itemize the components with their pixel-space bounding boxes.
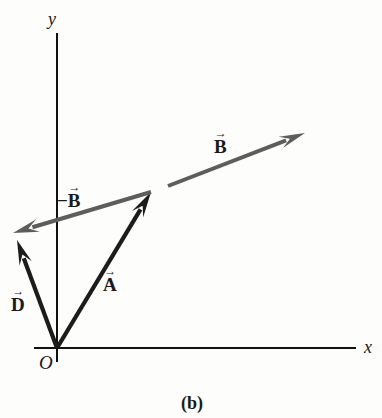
vector-label-text-D: D — [11, 294, 25, 315]
vector-D-shaft — [24, 258, 57, 348]
vector-label-minus-B: →−B — [57, 184, 81, 210]
vector-label-text-minus-B: −B — [57, 190, 81, 211]
vector-label-D: →D — [11, 288, 25, 314]
vector-label-text-B: B — [214, 136, 227, 157]
origin-label-text: O — [39, 352, 53, 373]
vector-label-A: →A — [103, 268, 117, 294]
vector-label-text-A: A — [103, 274, 117, 295]
figure-caption: (b) — [152, 394, 232, 412]
axes-group — [34, 33, 356, 362]
origin-label: O — [39, 353, 53, 372]
y-axis-label: y — [48, 10, 56, 28]
figure-caption-text: (b) — [181, 393, 203, 413]
vector-diagram-figure: y x O →A→B→−B→D (b) — [0, 0, 382, 418]
vector-B-shaft — [168, 140, 286, 186]
vector-A-shaft — [57, 209, 141, 348]
vector-label-B: →B — [214, 130, 227, 156]
y-axis-label-text: y — [48, 9, 56, 29]
x-axis-label: x — [364, 338, 372, 356]
x-axis-label-text: x — [364, 337, 372, 357]
vector-B — [168, 133, 305, 186]
